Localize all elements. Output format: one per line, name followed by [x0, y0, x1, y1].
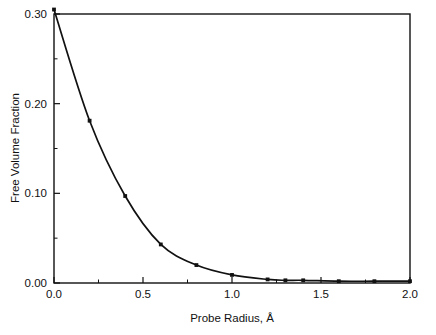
data-point-marker: [373, 279, 377, 283]
x-tick-label: 0.5: [135, 288, 151, 300]
data-point-marker: [230, 273, 234, 277]
data-point-marker: [52, 8, 56, 12]
data-point-marker: [408, 279, 412, 283]
data-point-marker: [266, 278, 270, 282]
y-tick-label: 0.00: [25, 277, 47, 289]
data-point-marker: [284, 278, 288, 282]
data-point-marker: [301, 278, 305, 282]
y-axis-title: Free Volume Fraction: [9, 93, 21, 203]
x-tick-label: 1.5: [313, 288, 329, 300]
data-point-marker: [123, 194, 127, 198]
data-point-marker: [159, 243, 163, 247]
x-tick-label: 1.0: [224, 288, 240, 300]
x-tick-label: 2.0: [402, 288, 418, 300]
figure-container: 0.00.51.01.52.0 0.000.100.200.30 Probe R…: [0, 0, 436, 335]
x-tick-label: 0.0: [46, 288, 62, 300]
free-volume-fraction-chart: 0.00.51.01.52.0 0.000.100.200.30 Probe R…: [0, 0, 436, 335]
data-point-marker: [195, 263, 199, 267]
data-point-marker: [88, 119, 92, 123]
y-tick-label: 0.10: [25, 187, 47, 199]
chart-background: [0, 0, 436, 335]
data-point-marker: [337, 279, 341, 283]
y-tick-label: 0.30: [25, 8, 47, 20]
y-tick-label: 0.20: [25, 98, 47, 110]
x-axis-title: Probe Radius, Å: [190, 312, 274, 324]
